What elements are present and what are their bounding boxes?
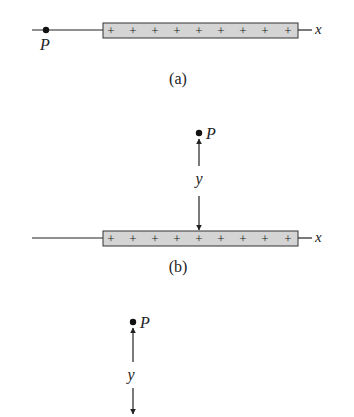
svg-text:+: + <box>173 231 180 246</box>
svg-text:+: + <box>284 23 291 38</box>
point-p-label: P <box>205 125 216 142</box>
svg-text:+: + <box>173 23 180 38</box>
svg-text:+: + <box>129 231 136 246</box>
svg-text:+: + <box>217 231 224 246</box>
caption-a: (a) <box>169 70 187 88</box>
distance-label: y <box>193 170 203 188</box>
x-axis-label: x <box>314 229 322 245</box>
svg-text:+: + <box>195 23 202 38</box>
svg-text:+: + <box>195 231 202 246</box>
svg-text:+: + <box>151 231 158 246</box>
point-p-dot <box>43 27 49 33</box>
svg-text:+: + <box>239 23 246 38</box>
plus-charges: +++ +++ +++ <box>107 231 291 246</box>
point-p-label: P <box>39 36 50 53</box>
panel-c: P y <box>125 314 150 414</box>
svg-text:+: + <box>284 231 291 246</box>
svg-text:+: + <box>261 231 268 246</box>
caption-b: (b) <box>169 258 188 276</box>
plus-charges: +++ +++ +++ <box>107 23 291 38</box>
point-p-dot <box>130 319 136 325</box>
charged-rod-figure: +++ +++ +++ x P (a) P y +++ +++ +++ x (b… <box>0 0 354 417</box>
point-p-label: P <box>139 314 150 331</box>
svg-text:+: + <box>239 231 246 246</box>
svg-text:+: + <box>129 23 136 38</box>
svg-text:+: + <box>151 23 158 38</box>
svg-text:+: + <box>107 231 114 246</box>
svg-text:+: + <box>107 23 114 38</box>
panel-a: +++ +++ +++ x P (a) <box>32 21 322 88</box>
svg-text:+: + <box>261 23 268 38</box>
panel-b: P y +++ +++ +++ x (b) <box>32 125 322 276</box>
x-axis-label: x <box>314 21 322 37</box>
point-p-dot <box>196 130 202 136</box>
distance-label: y <box>125 366 135 384</box>
svg-text:+: + <box>217 23 224 38</box>
